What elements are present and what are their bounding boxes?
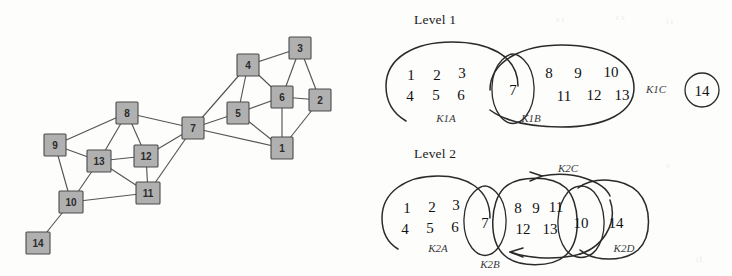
graph-node-11[interactable]: 11 <box>136 182 160 204</box>
graph-node-14[interactable]: 14 <box>26 232 50 254</box>
k1-shared-member-7: 7 <box>509 82 517 98</box>
venn-panel: s t r s i t s t1 Level 1 1 2 3 4 <box>366 0 732 276</box>
k2c-outer-arc <box>542 174 610 196</box>
k2d-label: K2D <box>613 242 635 254</box>
k2a-ellipse <box>382 176 490 249</box>
graph-node-3[interactable]: 3 <box>289 37 311 59</box>
k1b-member-10: 10 <box>604 64 619 80</box>
k2c-member-12: 12 <box>516 221 531 237</box>
graph-node-14-label: 14 <box>32 238 44 249</box>
svg-text:i t: i t <box>666 16 674 26</box>
k1a-member-2: 2 <box>433 67 441 83</box>
k2a-label: K2A <box>427 242 448 254</box>
graph-node-13-label: 13 <box>93 156 105 167</box>
graph-node-12[interactable]: 12 <box>134 145 158 167</box>
graph-node-10[interactable]: 10 <box>59 191 83 213</box>
k2c-member-13: 13 <box>543 221 558 237</box>
svg-text:s t: s t <box>556 14 565 24</box>
k1b-label: K1B <box>520 112 541 124</box>
k2-shared-member-10: 10 <box>574 215 589 231</box>
level-1-title: Level 1 <box>414 12 456 27</box>
level-2-title: Level 2 <box>414 146 456 161</box>
k2c-member-11: 11 <box>549 199 563 215</box>
svg-text:r s: r s <box>616 12 625 22</box>
k1a-member-3: 3 <box>458 65 466 81</box>
k1c-member-14: 14 <box>695 83 711 99</box>
level-1-group: Level 1 1 2 3 4 5 6 K1A 7 8 9 <box>386 12 719 127</box>
k2c-arrow-head-top <box>530 172 542 181</box>
graph-nodes: 1 2 3 4 5 <box>26 37 331 254</box>
cluster-hierarchy-diagram: s t r s i t s t1 Level 1 1 2 3 4 <box>366 0 732 276</box>
graph-node-3-label: 3 <box>297 43 303 54</box>
graph-node-5[interactable]: 5 <box>227 102 249 124</box>
k2c-member-9: 9 <box>532 200 540 216</box>
svg-text:t1: t1 <box>696 254 703 264</box>
figure-root: 1 2 3 4 5 <box>0 0 732 276</box>
k2a-member-6: 6 <box>451 219 459 235</box>
k2c-member-8: 8 <box>514 200 522 216</box>
k2a-member-5: 5 <box>426 220 434 236</box>
graph-node-1-label: 1 <box>279 143 285 154</box>
k2a-member-4: 4 <box>401 221 409 237</box>
graph-node-9[interactable]: 9 <box>44 134 66 156</box>
k2c-label: K2C <box>557 162 579 174</box>
k2b-member-7: 7 <box>481 215 489 231</box>
graph-node-4[interactable]: 4 <box>237 54 259 76</box>
graph-node-8[interactable]: 8 <box>116 102 138 124</box>
k1b-member-12: 12 <box>587 87 602 103</box>
graph-node-1[interactable]: 1 <box>271 137 293 159</box>
graph-node-5-label: 5 <box>235 108 241 119</box>
k1c-label: K1C <box>645 83 667 95</box>
graph-node-9-label: 9 <box>52 140 58 151</box>
k2d-member-14: 14 <box>609 215 625 231</box>
k2b-label: K2B <box>479 258 500 270</box>
graph-node-7-label: 7 <box>190 123 196 134</box>
k1a-member-4: 4 <box>406 88 414 104</box>
graph-node-13[interactable]: 13 <box>87 150 111 172</box>
k2c-arrow-head <box>510 248 523 257</box>
k1b-member-11: 11 <box>557 88 571 104</box>
graph-node-7[interactable]: 7 <box>182 117 204 139</box>
k1b-member-9: 9 <box>574 65 582 81</box>
svg-text:s: s <box>666 160 670 170</box>
k1a-ellipse <box>386 42 518 121</box>
graph-node-11-label: 11 <box>143 188 154 199</box>
level-2-group: Level 2 1 2 <box>382 146 649 270</box>
graph-node-6-label: 6 <box>279 92 285 103</box>
graph-node-6[interactable]: 6 <box>271 86 293 108</box>
k1a-member-5: 5 <box>432 87 440 103</box>
graph-panel: 1 2 3 4 5 <box>0 0 366 276</box>
k1a-label: K1A <box>435 112 456 124</box>
graph-node-8-label: 8 <box>124 108 130 119</box>
k1a-member-6: 6 <box>457 87 465 103</box>
graph-node-10-label: 10 <box>65 197 77 208</box>
k2a-member-2: 2 <box>428 199 436 215</box>
k2a-member-3: 3 <box>452 197 460 213</box>
graph-node-2[interactable]: 2 <box>309 89 331 111</box>
graph-diagram: 1 2 3 4 5 <box>0 0 366 276</box>
graph-node-4-label: 4 <box>245 60 251 71</box>
k1b-member-13: 13 <box>615 87 630 103</box>
graph-node-12-label: 12 <box>140 151 152 162</box>
k2c-circle <box>493 178 578 265</box>
k1a-member-1: 1 <box>407 67 415 83</box>
k1b-member-8: 8 <box>545 65 553 81</box>
graph-node-2-label: 2 <box>317 95 323 106</box>
k2a-member-1: 1 <box>403 200 411 216</box>
